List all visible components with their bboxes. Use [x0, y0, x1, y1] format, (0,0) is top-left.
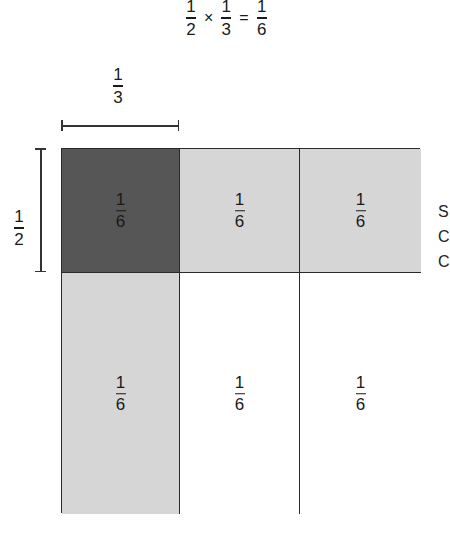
cell-fraction: 1 6	[116, 374, 126, 414]
fraction-one-third: 1 3	[221, 0, 231, 38]
fraction-bar	[113, 85, 123, 87]
denominator: 6	[116, 213, 125, 230]
numerator: 1	[186, 0, 195, 15]
numerator: 1	[116, 374, 125, 391]
grid-cell-r2c1-shaded-light: 1 6	[62, 273, 180, 514]
height-label: 1 2	[14, 208, 24, 248]
fraction-bar	[116, 210, 126, 212]
denominator: 3	[113, 89, 122, 106]
fraction-bar	[116, 393, 126, 395]
grid-cell-r2c3-white: 1 6	[300, 273, 421, 514]
cutoff-text: C	[438, 253, 450, 271]
denominator: 6	[257, 21, 266, 38]
width-bracket	[61, 125, 179, 127]
denominator: 6	[235, 396, 244, 413]
grid-cell-r1c1-shaded-dark: 1 6	[62, 149, 180, 273]
cell-fraction: 1 6	[356, 374, 366, 414]
denominator: 6	[235, 213, 244, 230]
fraction-bar	[356, 210, 366, 212]
cell-fraction: 1 6	[235, 374, 245, 414]
height-bracket	[40, 148, 42, 272]
numerator: 1	[235, 191, 244, 208]
fraction-bar	[356, 393, 366, 395]
fraction-one-sixth-result: 1 6	[257, 0, 267, 38]
numerator: 1	[222, 0, 231, 15]
denominator: 2	[186, 21, 195, 38]
cutoff-text: S	[438, 203, 449, 221]
denominator: 6	[116, 396, 125, 413]
numerator: 1	[235, 374, 244, 391]
fraction-bar	[235, 393, 245, 395]
grid-cell-r2c2-white: 1 6	[180, 273, 300, 514]
fraction-one-half: 1 2	[186, 0, 196, 38]
cell-fraction: 1 6	[356, 191, 366, 231]
fraction-bar	[186, 17, 196, 19]
grid-cell-r1c3-shaded-light: 1 6	[300, 149, 421, 273]
numerator: 1	[257, 0, 266, 15]
fraction-bar	[235, 210, 245, 212]
width-label: 1 3	[113, 66, 123, 106]
cell-fraction: 1 6	[116, 191, 126, 231]
grid-cell-r1c2-shaded-light: 1 6	[180, 149, 300, 273]
fraction-bar	[257, 17, 267, 19]
denominator: 6	[356, 396, 365, 413]
fraction-bar	[221, 17, 231, 19]
cutoff-text: C	[438, 228, 450, 246]
equals-sign: =	[239, 9, 248, 27]
fraction-bar	[14, 227, 24, 229]
times-operator: ×	[204, 9, 213, 27]
denominator: 6	[356, 213, 365, 230]
equation: 1 2 × 1 3 = 1 6	[186, 2, 267, 34]
numerator: 1	[113, 66, 122, 83]
denominator: 3	[222, 21, 231, 38]
numerator: 1	[356, 374, 365, 391]
cell-fraction: 1 6	[235, 191, 245, 231]
area-model-grid: 1 6 1 6 1 6 1 6 1 6 1	[61, 148, 420, 513]
denominator: 2	[14, 231, 23, 248]
numerator: 1	[116, 191, 125, 208]
numerator: 1	[356, 191, 365, 208]
numerator: 1	[14, 208, 23, 225]
